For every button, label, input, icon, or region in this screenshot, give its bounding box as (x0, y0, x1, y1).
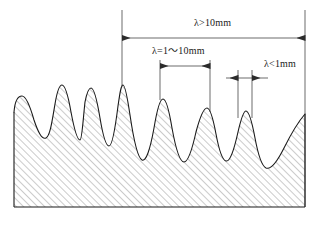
dimension-medium-wavelength (160, 60, 210, 112)
diagram-canvas: λ>10mm λ=1～10mm λ<1mm (0, 0, 320, 229)
label-medium-wavelength: λ=1～10mm (152, 42, 205, 57)
label-short-wavelength: λ<1mm (264, 58, 296, 69)
surface-roughness-diagram (0, 0, 320, 229)
label-long-wavelength: λ>10mm (194, 17, 231, 28)
workpiece-body (14, 85, 305, 207)
